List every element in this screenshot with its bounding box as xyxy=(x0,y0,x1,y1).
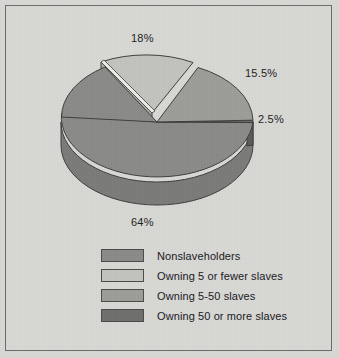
figure-border xyxy=(5,5,332,351)
pie-chart-figure: 18% 15.5% 2.5% 64% Nonslaveholders Ownin… xyxy=(0,0,339,358)
